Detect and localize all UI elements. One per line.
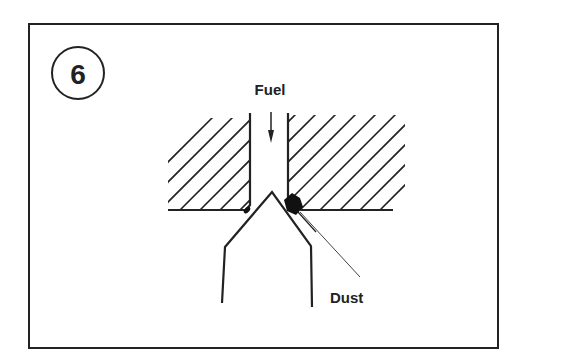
fuel-label: Fuel: [255, 81, 286, 98]
dust-label: Dust: [330, 289, 363, 306]
step-number: 6: [70, 59, 86, 90]
figure-frame: [29, 24, 498, 348]
fuel-flow-arrow-icon: [268, 112, 274, 143]
dust-particles: [243, 193, 303, 215]
fuel-needle-valve-diagram: 6 Fuel: [0, 0, 586, 360]
valve-body-right: [270, 110, 480, 210]
seat-gap-line: [298, 212, 316, 232]
step-badge: 6: [52, 47, 104, 99]
